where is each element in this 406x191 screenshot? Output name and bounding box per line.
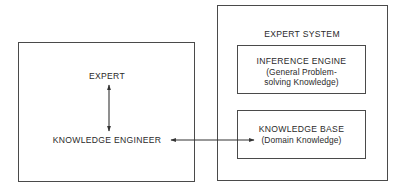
- connector-arrows: [0, 0, 406, 191]
